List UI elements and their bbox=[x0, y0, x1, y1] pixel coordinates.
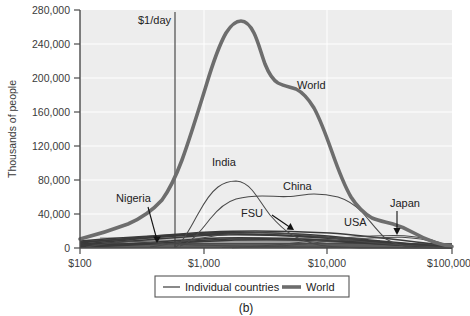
poverty-line-label: $1/day bbox=[138, 14, 172, 26]
x-tick-label-100000: $100,000 bbox=[427, 257, 470, 269]
y-tick-label-120000: 120,000 bbox=[32, 140, 70, 152]
china-label: China bbox=[283, 180, 313, 192]
y-tickmarks bbox=[74, 10, 80, 248]
world-label: World bbox=[297, 79, 326, 91]
y-tick-label-160000: 160,000 bbox=[32, 106, 70, 118]
india-label: India bbox=[212, 156, 237, 168]
figure-panel-b: 280,000 240,000 200,000 160,000 120,000 … bbox=[0, 0, 470, 316]
y-tick-label-0: 0 bbox=[64, 242, 70, 254]
japan-label: Japan bbox=[390, 197, 420, 209]
y-axis-title: Thousands of people bbox=[6, 80, 18, 178]
chart-svg: 280,000 240,000 200,000 160,000 120,000 … bbox=[0, 0, 470, 316]
panel-caption: (b) bbox=[239, 301, 254, 315]
y-tick-label-280000: 280,000 bbox=[32, 4, 70, 16]
y-tick-label-80000: 80,000 bbox=[38, 174, 70, 186]
usa-label: USA bbox=[344, 216, 367, 228]
legend-label-world: World bbox=[306, 281, 335, 293]
y-tick-label-240000: 240,000 bbox=[32, 38, 70, 50]
y-tick-label-40000: 40,000 bbox=[38, 208, 70, 220]
legend-label-individual-countries: Individual countries bbox=[185, 281, 280, 293]
y-tick-label-200000: 200,000 bbox=[32, 72, 70, 84]
fsu-label: FSU bbox=[241, 207, 263, 219]
x-tickmarks bbox=[80, 248, 452, 254]
plot-background bbox=[80, 10, 452, 248]
nigeria-label: Nigeria bbox=[116, 192, 152, 204]
chart-legend: Individual countries World bbox=[155, 276, 349, 297]
x-tick-label-10000: $10,000 bbox=[308, 257, 346, 269]
x-tick-label-1000: $1,000 bbox=[188, 257, 220, 269]
x-tick-label-100: $100 bbox=[68, 257, 92, 269]
